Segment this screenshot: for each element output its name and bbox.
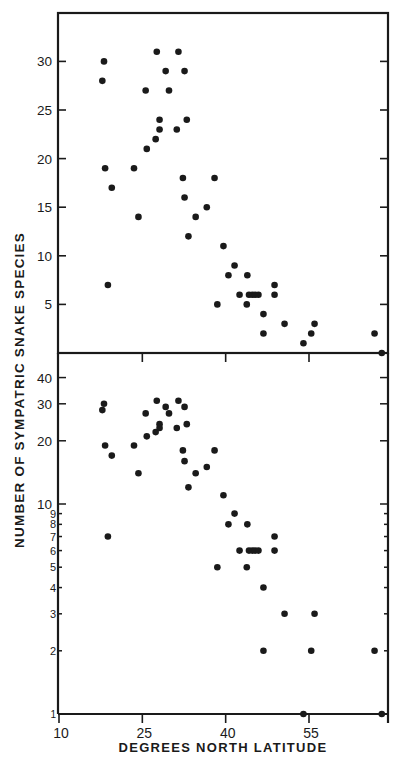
data-point bbox=[135, 470, 142, 477]
data-point bbox=[211, 175, 218, 182]
data-point bbox=[311, 321, 318, 328]
x-axis: 10254055 bbox=[53, 714, 319, 741]
y-tick-label: 1 bbox=[50, 709, 56, 720]
y-tick-label: 30 bbox=[37, 397, 52, 412]
data-point bbox=[300, 340, 307, 347]
x-tick-label: 10 bbox=[53, 725, 69, 741]
data-point bbox=[225, 272, 232, 279]
x-tick-label: 25 bbox=[137, 725, 153, 741]
data-point bbox=[244, 521, 251, 528]
data-point bbox=[203, 464, 210, 471]
data-point bbox=[371, 647, 378, 654]
y-tick-label: 5 bbox=[44, 297, 52, 312]
top-panel-frame bbox=[58, 13, 388, 353]
data-point bbox=[153, 398, 160, 405]
data-point bbox=[152, 136, 159, 143]
data-point bbox=[255, 547, 262, 554]
data-point bbox=[378, 350, 385, 357]
data-point bbox=[260, 647, 267, 654]
y-tick-label: 20 bbox=[37, 152, 52, 167]
data-point bbox=[300, 711, 307, 718]
data-point bbox=[271, 291, 278, 298]
data-point bbox=[181, 194, 188, 201]
data-point bbox=[175, 48, 182, 55]
data-point bbox=[105, 282, 112, 289]
data-point bbox=[371, 330, 378, 337]
data-point bbox=[166, 87, 173, 94]
data-point bbox=[231, 510, 238, 517]
data-point bbox=[101, 58, 108, 65]
data-point bbox=[225, 521, 232, 528]
data-point bbox=[192, 214, 199, 221]
y-tick-label: 5 bbox=[50, 561, 56, 573]
data-point bbox=[101, 401, 108, 408]
data-point bbox=[236, 291, 243, 298]
top-panel-linear: 51015202530 bbox=[37, 13, 388, 362]
data-point bbox=[243, 564, 250, 571]
y-tick-label: 20 bbox=[37, 434, 52, 449]
y-tick-label: 3 bbox=[50, 608, 56, 620]
data-point bbox=[231, 262, 238, 269]
data-point bbox=[131, 165, 138, 172]
data-point bbox=[260, 311, 267, 318]
data-point bbox=[166, 410, 173, 417]
data-point bbox=[181, 404, 188, 411]
data-point bbox=[156, 126, 163, 133]
data-point bbox=[203, 204, 210, 211]
data-point bbox=[236, 547, 243, 554]
data-point bbox=[183, 116, 190, 123]
y-axis-label: NUMBER OF SYMPATRIC SNAKE SPECIES bbox=[12, 232, 27, 548]
y-tick-label: 8 bbox=[50, 518, 56, 530]
y-tick-label: 15 bbox=[37, 200, 52, 215]
data-point bbox=[156, 425, 163, 432]
data-point bbox=[108, 184, 115, 191]
y-tick-label: 7 bbox=[50, 531, 56, 543]
y-tick-label: 10 bbox=[37, 249, 52, 264]
y-tick-label: 30 bbox=[37, 54, 52, 69]
data-point bbox=[135, 214, 142, 221]
data-point bbox=[181, 458, 188, 465]
y-tick-label: 6 bbox=[50, 545, 56, 557]
data-point bbox=[378, 711, 385, 718]
data-point bbox=[255, 291, 262, 298]
data-point bbox=[99, 407, 106, 414]
data-point bbox=[99, 78, 106, 85]
data-point bbox=[185, 484, 192, 491]
data-point bbox=[271, 533, 278, 540]
data-point bbox=[175, 398, 182, 405]
data-point bbox=[108, 452, 115, 459]
data-point bbox=[173, 126, 180, 133]
data-point bbox=[271, 282, 278, 289]
y-tick-label: 10 bbox=[37, 497, 52, 512]
data-point bbox=[308, 647, 315, 654]
data-point bbox=[131, 442, 138, 449]
y-tick-label: 40 bbox=[37, 371, 52, 386]
bottom-panel-log: 12345678910203040 bbox=[37, 353, 388, 723]
data-point bbox=[214, 564, 221, 571]
data-point bbox=[143, 433, 150, 440]
data-point bbox=[102, 165, 109, 172]
data-point bbox=[220, 243, 227, 250]
data-point bbox=[156, 116, 163, 123]
data-point bbox=[153, 48, 160, 55]
data-point bbox=[243, 301, 250, 308]
data-point bbox=[281, 611, 288, 618]
scatter-chart: 51015202530 12345678910203040 10254055 N… bbox=[0, 0, 402, 763]
data-point bbox=[211, 447, 218, 454]
data-point bbox=[162, 68, 169, 75]
y-tick-label: 2 bbox=[50, 645, 56, 657]
data-point bbox=[260, 330, 267, 337]
data-point bbox=[183, 421, 190, 428]
data-point bbox=[244, 272, 251, 279]
data-point bbox=[142, 87, 149, 94]
data-point bbox=[192, 470, 199, 477]
data-point bbox=[102, 442, 109, 449]
x-axis-label: DEGREES NORTH LATITUDE bbox=[119, 740, 328, 755]
x-tick-label: 55 bbox=[303, 725, 319, 741]
data-point bbox=[143, 146, 150, 153]
data-point bbox=[260, 584, 267, 591]
data-point bbox=[281, 321, 288, 328]
data-point bbox=[142, 410, 149, 417]
data-point bbox=[214, 301, 221, 308]
chart-canvas: 51015202530 12345678910203040 10254055 N… bbox=[0, 0, 402, 763]
